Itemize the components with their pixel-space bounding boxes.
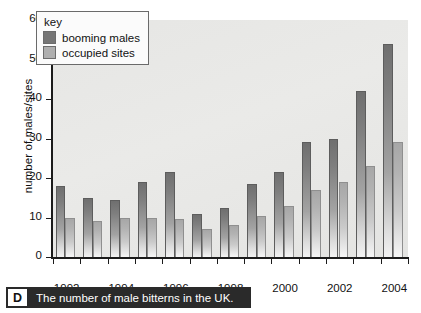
bar-occupied-sites-2001 xyxy=(311,190,321,257)
y-axis-tick: 0 xyxy=(46,257,53,258)
y-axis-tick-label: 20 xyxy=(29,171,42,183)
x-axis-tick xyxy=(299,257,300,264)
y-axis-tick: 20 xyxy=(46,178,53,179)
y-axis-tick-label: 30 xyxy=(29,132,42,144)
bar-occupied-sites-1995 xyxy=(147,218,157,258)
y-axis-tick-label: 0 xyxy=(36,250,42,262)
legend-title: key xyxy=(44,16,140,28)
x-axis-tick xyxy=(244,257,245,264)
y-axis-tick-label: 40 xyxy=(29,92,42,104)
x-axis-tick xyxy=(326,257,327,264)
y-axis-tick: 40 xyxy=(46,99,53,100)
bar-booming-males-2004 xyxy=(383,44,393,257)
legend-swatch-occupied-sites-icon xyxy=(43,46,56,59)
caption-badge: D xyxy=(8,289,27,306)
legend-item-occupied-sites: occupied sites xyxy=(43,46,140,59)
bar-occupied-sites-2002 xyxy=(339,182,349,257)
chart-legend: key booming males occupied sites xyxy=(36,11,149,65)
x-axis-tick xyxy=(271,257,272,264)
bar-booming-males-2001 xyxy=(302,142,312,257)
caption-text: The number of male bitterns in the UK. xyxy=(29,287,242,308)
bar-booming-males-1992 xyxy=(56,186,66,257)
bar-occupied-sites-1992 xyxy=(65,218,75,258)
bar-booming-males-1997 xyxy=(192,214,202,257)
bar-booming-males-1994 xyxy=(110,200,120,257)
y-axis-tick-label: 10 xyxy=(29,211,42,223)
bar-booming-males-2000 xyxy=(274,172,284,257)
x-axis-tick-label: 2000 xyxy=(262,283,308,295)
x-axis-tick xyxy=(135,257,136,264)
legend-item-booming-males: booming males xyxy=(43,31,140,44)
bar-occupied-sites-1998 xyxy=(229,225,239,257)
bar-occupied-sites-2004 xyxy=(393,142,403,257)
x-axis-tick xyxy=(190,257,191,264)
x-axis-tick xyxy=(353,257,354,264)
bar-occupied-sites-1997 xyxy=(202,229,212,257)
x-axis-tick xyxy=(408,257,409,264)
x-axis-tick xyxy=(217,257,218,264)
bar-occupied-sites-2003 xyxy=(366,166,376,257)
x-axis-tick-label: 2002 xyxy=(317,283,363,295)
y-axis-tick: 30 xyxy=(46,139,53,140)
bar-booming-males-2002 xyxy=(329,139,339,258)
x-axis-tick xyxy=(108,257,109,264)
legend-swatch-booming-males-icon xyxy=(43,31,56,44)
bar-occupied-sites-2000 xyxy=(284,206,294,257)
bar-booming-males-1998 xyxy=(220,208,230,257)
y-axis-tick: 10 xyxy=(46,218,53,219)
bar-occupied-sites-1996 xyxy=(175,219,185,257)
legend-label-booming-males: booming males xyxy=(62,32,140,44)
bar-booming-males-2003 xyxy=(356,91,366,257)
x-axis-tick xyxy=(53,257,54,264)
bar-occupied-sites-1994 xyxy=(120,218,130,258)
bar-booming-males-1999 xyxy=(247,184,257,257)
figure-caption: D The number of male bitterns in the UK. xyxy=(6,287,251,308)
bar-occupied-sites-1999 xyxy=(257,216,267,257)
legend-label-occupied-sites: occupied sites xyxy=(62,47,135,59)
bar-booming-males-1993 xyxy=(83,198,93,257)
bar-occupied-sites-1993 xyxy=(93,221,103,257)
bar-booming-males-1995 xyxy=(138,182,148,257)
x-axis-tick xyxy=(381,257,382,264)
x-axis-tick-label: 2004 xyxy=(371,283,417,295)
bar-chart-figure: number of males/sites 010203040506019921… xyxy=(0,0,421,313)
x-axis-tick xyxy=(80,257,81,264)
x-axis-tick xyxy=(162,257,163,264)
bar-booming-males-1996 xyxy=(165,172,175,257)
